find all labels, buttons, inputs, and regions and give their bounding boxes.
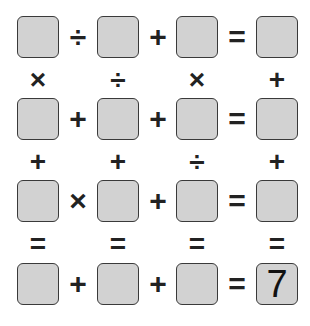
operator-r1-2: +	[140, 19, 176, 55]
vertical-operator-3-c4: =	[259, 226, 295, 262]
answer-cell-r1-c2[interactable]	[97, 16, 139, 58]
operator-r4-3: =	[219, 266, 255, 302]
vertical-operator-2-c2: +	[100, 144, 136, 180]
answer-cell-r3-c2[interactable]	[97, 180, 139, 222]
answer-cell-r2-c2[interactable]	[97, 98, 139, 140]
answer-cell-r2-c1[interactable]	[17, 98, 59, 140]
vertical-operator-2-c4: +	[259, 144, 295, 180]
operator-r1-3: =	[219, 19, 255, 55]
answer-cell-r3-c4[interactable]	[256, 180, 298, 222]
vertical-operator-2-c1: +	[20, 144, 56, 180]
vertical-operator-3-c2: =	[100, 226, 136, 262]
vertical-operator-3-c1: =	[20, 226, 56, 262]
operator-r2-1: +	[60, 101, 96, 137]
operator-r2-3: =	[219, 101, 255, 137]
operator-r4-2: +	[140, 266, 176, 302]
answer-cell-r3-c3[interactable]	[176, 180, 218, 222]
operator-r1-1: ÷	[60, 19, 96, 55]
operator-r3-1: ×	[60, 183, 96, 219]
vertical-operator-1-c1: ×	[20, 62, 56, 98]
answer-cell-r3-c1[interactable]	[17, 180, 59, 222]
answer-cell-r1-c1[interactable]	[17, 16, 59, 58]
answer-cell-r2-c3[interactable]	[176, 98, 218, 140]
answer-cell-r4-c1[interactable]	[17, 263, 59, 305]
operator-r2-2: +	[140, 101, 176, 137]
operator-r3-2: +	[140, 183, 176, 219]
vertical-operator-1-c2: ÷	[100, 62, 136, 98]
operator-r4-1: +	[60, 266, 96, 302]
answer-cell-r4-c2[interactable]	[97, 263, 139, 305]
vertical-operator-1-c3: ×	[179, 62, 215, 98]
vertical-operator-2-c3: ÷	[179, 144, 215, 180]
answer-cell-r4-c3[interactable]	[176, 263, 218, 305]
answer-cell-r4-c4[interactable]: 7	[256, 263, 298, 305]
vertical-operator-1-c4: +	[259, 62, 295, 98]
operator-r3-3: =	[219, 183, 255, 219]
answer-cell-r1-c3[interactable]	[176, 16, 218, 58]
answer-cell-r1-c4[interactable]	[256, 16, 298, 58]
answer-cell-r2-c4[interactable]	[256, 98, 298, 140]
vertical-operator-3-c3: =	[179, 226, 215, 262]
